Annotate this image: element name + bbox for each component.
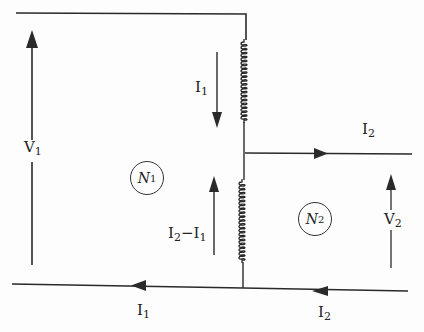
label-i1-coil-sub: 1 (201, 85, 208, 98)
label-i2-bottom: I2 (318, 305, 331, 322)
label-i2mi1-sub2: 1 (199, 231, 206, 244)
coil-upper (241, 39, 247, 123)
label-i2-out-sub: 2 (368, 127, 375, 140)
label-v1-sub: 1 (35, 145, 42, 158)
top-wire (16, 13, 246, 40)
label-v1: V1 (24, 140, 42, 157)
circuit-wires (0, 0, 424, 332)
node-n2-sub: 2 (318, 214, 324, 225)
arrow-up-icon (209, 176, 219, 192)
label-v2-main: V (384, 210, 395, 228)
i2-minus-i1-arrow (209, 176, 219, 255)
arrow-left-icon (131, 280, 146, 291)
i1-coil-arrow (212, 52, 222, 128)
arrow-up-icon (386, 174, 396, 190)
coil-lower (239, 179, 245, 263)
label-i2-out: I2 (362, 122, 375, 139)
label-i1-bottom: I1 (137, 303, 150, 320)
arrow-up-icon (26, 30, 38, 48)
node-n1-sub: 1 (150, 173, 156, 184)
label-v1-main: V (24, 138, 35, 156)
label-i2mi1-sub: 2 (174, 231, 181, 244)
node-n2: N2 (298, 202, 332, 236)
i2-output-wire (245, 148, 412, 159)
node-n2-label: N (306, 211, 318, 227)
label-i1-bottom-sub: 1 (143, 308, 150, 321)
label-v2-sub: 2 (395, 217, 402, 230)
label-v2: V2 (384, 212, 402, 229)
arrow-down-icon (212, 112, 222, 128)
node-n1-label: N (138, 170, 150, 186)
arrow-left-icon (312, 286, 328, 296)
circuit-diagram: N1 N2 V1 I1 I2 I2−I1 V2 I1 I2 (0, 0, 424, 332)
label-i2-minus-i1: I2−I1 (168, 226, 206, 243)
node-n1: N1 (130, 161, 164, 195)
label-i2-bottom-sub: 2 (324, 310, 331, 323)
bottom-wire (12, 280, 408, 296)
label-i1-coil: I1 (195, 80, 208, 97)
label-i2mi1-sep: − (181, 224, 194, 242)
arrow-right-icon (314, 148, 328, 159)
